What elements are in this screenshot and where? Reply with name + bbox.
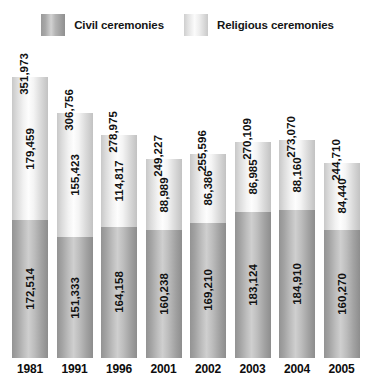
bar-value-label-religious: 86,386 bbox=[202, 171, 214, 206]
x-axis-tick-label: 2005 bbox=[324, 362, 360, 376]
bar-segment-civil[interactable]: 184,910 bbox=[279, 210, 315, 358]
bar-total-label: 249,227 bbox=[152, 135, 164, 177]
bar-stack[interactable]: 179,459172,514351,973 bbox=[12, 77, 48, 358]
bar-total-label: 306,756 bbox=[63, 89, 75, 131]
bar-stack[interactable]: 88,989160,238249,227 bbox=[146, 159, 182, 358]
bar-value-label-civil: 183,124 bbox=[247, 264, 259, 306]
bar-stack[interactable]: 84,440160,270244,710 bbox=[324, 163, 360, 358]
bar-value-label-religious: 88,160 bbox=[291, 158, 303, 193]
stacked-bar-chart: Civil ceremonies Religious ceremonies 17… bbox=[0, 0, 375, 390]
x-axis-tick-label: 2002 bbox=[190, 362, 226, 376]
bar-segment-civil[interactable]: 183,124 bbox=[235, 212, 271, 358]
bar-segment-civil[interactable]: 169,210 bbox=[190, 223, 226, 358]
bar-value-label-religious: 84,440 bbox=[336, 179, 348, 214]
bar-value-label-civil: 184,910 bbox=[291, 263, 303, 305]
bar-total-label: 273,070 bbox=[285, 116, 297, 158]
bar-value-label-religious: 88,989 bbox=[158, 177, 170, 212]
bar-total-label: 244,710 bbox=[330, 139, 342, 181]
bar-segment-civil[interactable]: 172,514 bbox=[12, 220, 48, 358]
bar-segment-religious[interactable]: 179,459 bbox=[12, 77, 48, 220]
x-axis-tick-label: 1991 bbox=[57, 362, 93, 376]
bar-stack[interactable]: 155,423151,333306,756 bbox=[57, 113, 93, 358]
x-axis-tick-label: 2004 bbox=[279, 362, 315, 376]
bar-value-label-civil: 164,158 bbox=[113, 272, 125, 314]
bar-segment-civil[interactable]: 151,333 bbox=[57, 237, 93, 358]
bar-segment-civil[interactable]: 160,238 bbox=[146, 230, 182, 358]
plot-area: 179,459172,514351,973155,423151,333306,7… bbox=[0, 0, 375, 358]
bar-total-label: 255,596 bbox=[196, 130, 208, 172]
bar-value-label-civil: 160,270 bbox=[336, 273, 348, 315]
bar-stack[interactable]: 88,160184,910273,070 bbox=[279, 140, 315, 358]
bar-stack[interactable]: 86,386169,210255,596 bbox=[190, 154, 226, 358]
bar-segment-civil[interactable]: 160,270 bbox=[324, 230, 360, 358]
bar-total-label: 270,109 bbox=[241, 119, 253, 161]
bar-stack[interactable]: 86,985183,124270,109 bbox=[235, 142, 271, 358]
x-axis-tick-label: 1996 bbox=[101, 362, 137, 376]
x-axis-tick-label: 2003 bbox=[235, 362, 271, 376]
bar-value-label-civil: 160,238 bbox=[158, 273, 170, 315]
bar-value-label-civil: 169,210 bbox=[202, 270, 214, 312]
bar-stack[interactable]: 114,817164,158278,975 bbox=[101, 135, 137, 358]
cropped-caption bbox=[3, 381, 203, 390]
bar-value-label-religious: 179,459 bbox=[24, 128, 36, 170]
bar-value-label-religious: 114,817 bbox=[113, 161, 125, 202]
bar-value-label-civil: 172,514 bbox=[24, 268, 36, 310]
bar-segment-religious[interactable]: 155,423 bbox=[57, 113, 93, 237]
bar-value-label-religious: 155,423 bbox=[69, 154, 81, 196]
bar-total-label: 351,973 bbox=[18, 53, 30, 95]
bar-value-label-civil: 151,333 bbox=[69, 277, 81, 319]
x-axis-tick-label: 2001 bbox=[146, 362, 182, 376]
bar-segment-civil[interactable]: 164,158 bbox=[101, 227, 137, 358]
bar-value-label-religious: 86,985 bbox=[247, 160, 259, 195]
bar-total-label: 278,975 bbox=[107, 112, 119, 154]
x-axis-tick-label: 1981 bbox=[12, 362, 48, 376]
